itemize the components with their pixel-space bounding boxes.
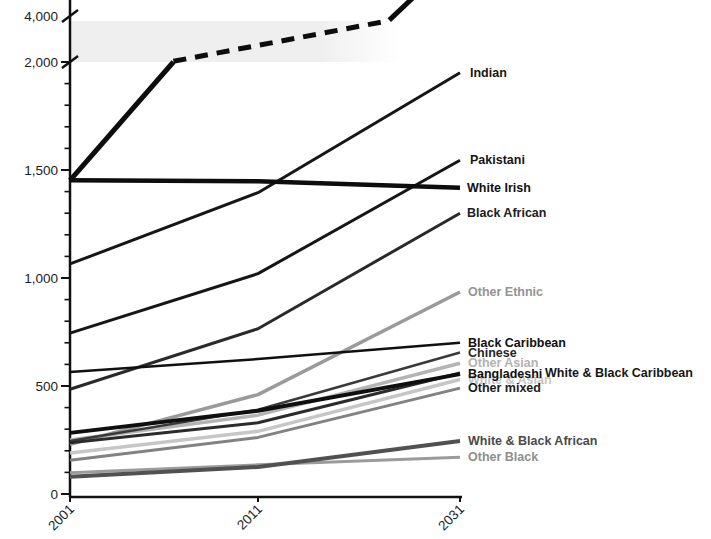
population-projection-chart: 05001,0001,5002,0004,000200120112031Whit… <box>0 0 711 539</box>
series-label-other-black: Other Black <box>468 450 538 464</box>
series-label-white-irish: White Irish <box>467 181 531 195</box>
y-tick-label-1000: 1,000 <box>24 271 58 286</box>
series-line-black-african <box>70 213 460 389</box>
chart-plot-area: 05001,0001,5002,0004,000200120112031Whit… <box>0 0 711 539</box>
series-line-white-irish <box>70 180 460 187</box>
y-tick-label-1500: 1,500 <box>24 163 58 178</box>
series-label-pakistani: Pakistani <box>470 153 525 167</box>
series-label-other-mixed: Other mixed <box>468 381 541 395</box>
series-line-indian <box>70 73 460 264</box>
series-label-black-caribbean: Black Caribbean <box>468 336 566 350</box>
y-tick-label-4000: 4,000 <box>24 9 58 24</box>
x-tick-label-2031: 2031 <box>435 502 467 534</box>
series-label-other-ethnic: Other Ethnic <box>468 285 543 299</box>
series-label-black-african: Black African <box>467 206 546 220</box>
y-tick-label-2000: 2,000 <box>24 55 58 70</box>
series-label-bangladeshi: Bangladeshi <box>468 367 542 381</box>
x-tick-label-2001: 2001 <box>45 502 77 534</box>
y-tick-label-500: 500 <box>35 379 58 394</box>
series-line-black-caribbean <box>70 343 460 372</box>
x-tick-label-2011: 2011 <box>234 502 265 533</box>
series-label-white-black-african: White & Black African <box>468 434 597 448</box>
series-line-offscale-top-line-seg1 <box>70 62 173 180</box>
series-label-white-black-caribbean: White & Black Caribbean <box>545 366 693 380</box>
series-label-indian: Indian <box>470 66 507 80</box>
y-tick-label-0: 0 <box>50 487 58 502</box>
series-line-offscale-top-line-seg3 <box>389 0 415 20</box>
